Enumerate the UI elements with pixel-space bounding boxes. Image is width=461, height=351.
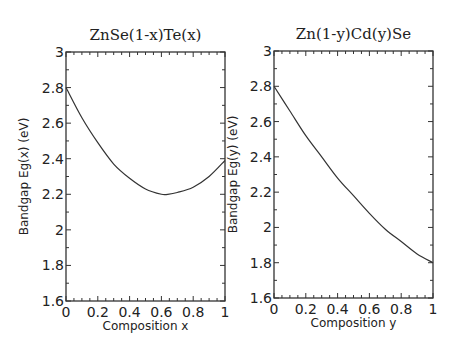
x-tick-label: 0.2 xyxy=(87,304,109,320)
y-tick-label: 2.2 xyxy=(250,184,272,200)
y-tick-label: 2.4 xyxy=(42,151,64,167)
plot-frame xyxy=(274,51,433,298)
y-tick-label: 3 xyxy=(55,44,64,60)
x-tick-label: 0.4 xyxy=(118,304,140,320)
y-tick-label: 2.2 xyxy=(42,186,64,202)
y-tick-label: 2.6 xyxy=(250,114,272,130)
y-tick-label: 1.6 xyxy=(42,293,64,309)
x-tick-label: 1 xyxy=(221,304,230,320)
y-axis-label: Bandgap Eg(y) (eV) xyxy=(226,116,240,234)
y-tick-label: 2.6 xyxy=(42,115,64,131)
plot-frame xyxy=(66,52,225,301)
x-tick-label: 0.8 xyxy=(182,304,204,320)
y-tick-label: 1.8 xyxy=(42,257,64,273)
y-tick-label: 1.8 xyxy=(250,255,272,271)
y-tick-label: 2.4 xyxy=(250,149,272,165)
y-tick-label: 3 xyxy=(263,43,272,59)
chart-title: Zn(1-y)Cd(y)Se xyxy=(296,25,411,43)
y-tick-label: 2.8 xyxy=(250,78,272,94)
x-axis-label: Composition x xyxy=(103,319,189,333)
x-axis-label: Composition y xyxy=(311,316,397,330)
y-tick-label: 2 xyxy=(263,219,272,235)
x-tick-label: 1 xyxy=(429,301,438,317)
y-axis-label: Bandgap Eg(x) (eV) xyxy=(17,118,31,236)
y-tick-label: 2 xyxy=(55,222,64,238)
x-tick-label: 0.6 xyxy=(358,301,380,317)
x-tick-label: 0.2 xyxy=(295,301,317,317)
left-panel: ZnSe(1-x)Te(x)00.20.40.60.811.61.822.22.… xyxy=(17,26,229,333)
x-tick-label: 0.4 xyxy=(326,301,348,317)
y-tick-label: 2.8 xyxy=(42,80,64,96)
x-tick-label: 0.8 xyxy=(390,301,412,317)
bandgap-curve xyxy=(66,88,225,195)
chart-figure: ZnSe(1-x)Te(x)00.20.40.60.811.61.822.22.… xyxy=(0,0,461,351)
bandgap-curve xyxy=(274,86,433,262)
y-tick-label: 1.6 xyxy=(250,290,272,306)
x-tick-label: 0.6 xyxy=(150,304,172,320)
chart-title: ZnSe(1-x)Te(x) xyxy=(90,26,202,44)
right-panel: Zn(1-y)Cd(y)Se00.20.40.60.811.61.822.22.… xyxy=(226,25,437,330)
